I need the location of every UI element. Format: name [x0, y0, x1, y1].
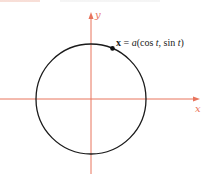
cos-text: (cos — [137, 37, 156, 49]
point-on-circle — [110, 46, 115, 51]
x-axis-arrow-icon — [193, 97, 200, 102]
y-axis-label: y — [94, 9, 101, 20]
x-axis-label: x — [195, 103, 201, 114]
y-axis-arrow-icon — [89, 12, 94, 19]
parametric-circle-diagram: x y x = a(cos t, sin t) — [0, 0, 209, 183]
sin-text: , sin — [159, 37, 178, 48]
close-paren: ) — [181, 37, 184, 49]
point-equation-label: x = a(cos t, sin t) — [116, 37, 184, 49]
equals-sign: = — [121, 37, 132, 48]
